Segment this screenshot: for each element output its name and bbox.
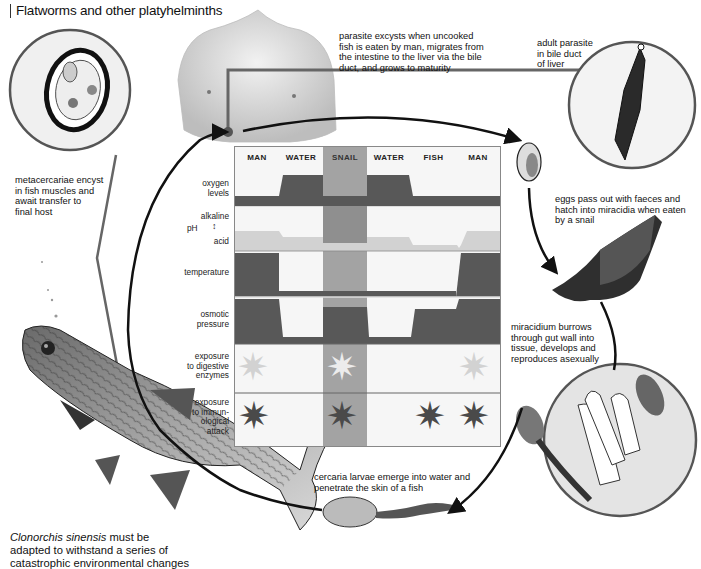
row-label-osmotic-pressure: osmotic pressure xyxy=(197,310,229,329)
snail-illustration xyxy=(552,215,662,301)
row-label-oxygen: oxygen levels xyxy=(202,179,229,198)
row-label-temperature: temperature xyxy=(184,268,229,278)
caption-line2: adapted to withstand a series of xyxy=(10,544,189,557)
human-torso-illustration xyxy=(178,10,336,142)
digestive-enzyme-star-man: ✷ xyxy=(237,348,269,386)
ph-arrow-icon: ↕ xyxy=(212,221,217,231)
immune-attack-star-man: ✷ xyxy=(238,397,270,435)
annotation-miracidium: miracidium burrows through gut wall into… xyxy=(511,322,599,364)
row-label-digestive-enzymes: exposure to digestive enzymes xyxy=(187,352,229,381)
row-label-immune-attack: exposure to immun- ological attack xyxy=(192,398,229,436)
environment-chart: MAN WATER SNAIL WATER FISH MAN ✷ ✷ ✷ ✷ ✷… xyxy=(234,146,501,447)
digestive-enzyme-star-snail: ✷ xyxy=(326,348,358,386)
immune-attack-star-man: ✷ xyxy=(458,397,490,435)
annotation-metacercariae: metacercariae encyst in fish muscles and… xyxy=(15,175,103,217)
caption-line3: catastrophic environmental changes xyxy=(10,557,189,569)
larval-stages-circle xyxy=(511,364,696,516)
annotation-cercaria: cercaria larvae emerge into water and pe… xyxy=(314,472,470,493)
cercaria-illustration xyxy=(323,497,464,527)
immune-attack-star-fish: ✷ xyxy=(414,397,446,435)
figure-caption: Clonorchis sinensis must be adapted to w… xyxy=(10,531,189,569)
metacercaria-cyst-circle xyxy=(10,30,130,150)
immune-attack-star-snail: ✷ xyxy=(326,397,358,435)
caption-line1-rest: must be xyxy=(106,531,149,543)
annotation-man-infection: parasite excysts when uncooked fish is e… xyxy=(339,31,484,73)
digestive-enzyme-star-man: ✷ xyxy=(458,348,490,386)
egg-illustration xyxy=(517,143,541,181)
row-label-ph: pH xyxy=(187,224,198,234)
caption-species-name: Clonorchis sinensis xyxy=(10,531,106,543)
row-label-acid: acid xyxy=(214,237,229,247)
annotation-adult-parasite: adult parasite in bile duct of liver xyxy=(537,38,593,70)
annotation-eggs: eggs pass out with faeces and hatch into… xyxy=(555,194,686,226)
